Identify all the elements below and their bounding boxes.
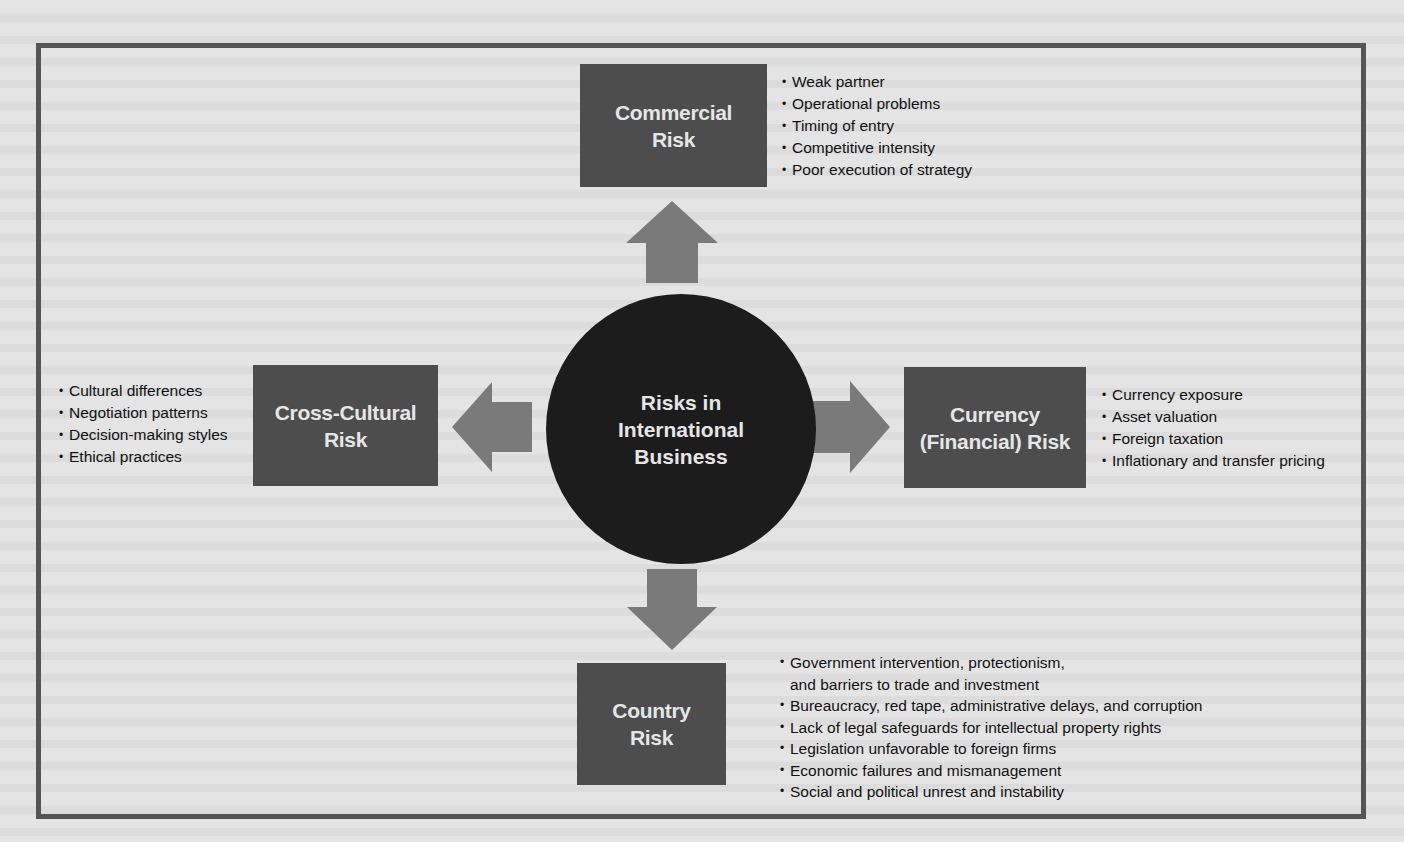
cross-cultural-risk-box: Cross-Cultural Risk xyxy=(253,365,438,486)
list-item: Ethical practices xyxy=(59,446,228,468)
arrow-down-icon xyxy=(627,569,717,650)
commercial-risk-title: Risk xyxy=(615,126,732,153)
commercial-risk-list: Weak partner Operational problems Timing… xyxy=(782,71,972,181)
list-item: Social and political unrest and instabil… xyxy=(780,781,1202,803)
currency-risk-title: (Financial) Risk xyxy=(920,428,1070,455)
center-title-line: International xyxy=(618,416,744,443)
country-risk-box: Country Risk xyxy=(577,663,726,785)
center-title-line: Business xyxy=(618,443,744,470)
list-item: Cultural differences xyxy=(59,380,228,402)
currency-financial-risk-box: Currency (Financial) Risk xyxy=(904,367,1086,488)
list-item: Negotiation patterns xyxy=(59,402,228,424)
list-item: Weak partner xyxy=(782,71,972,93)
arrow-right-icon xyxy=(812,381,890,473)
commercial-risk-box: Commercial Risk xyxy=(580,64,767,187)
list-item: Operational problems xyxy=(782,93,972,115)
list-item: Timing of entry xyxy=(782,115,972,137)
list-item-text: Government intervention, protectionism, xyxy=(790,654,1065,671)
country-risk-list: Government intervention, protectionism, … xyxy=(780,652,1202,803)
arrow-left-icon xyxy=(452,382,532,472)
list-item: Asset valuation xyxy=(1102,406,1325,428)
list-item: Foreign taxation xyxy=(1102,428,1325,450)
list-item: Competitive intensity xyxy=(782,137,972,159)
list-item: Bureaucracy, red tape, administrative de… xyxy=(780,695,1202,717)
center-title-line: Risks in xyxy=(618,389,744,416)
arrow-up-icon xyxy=(626,201,718,283)
list-item: Government intervention, protectionism, … xyxy=(780,652,1202,695)
commercial-risk-title: Commercial xyxy=(615,99,732,126)
center-risks-in-international-business: Risks in International Business xyxy=(546,294,816,564)
list-item: Currency exposure xyxy=(1102,384,1325,406)
list-item: Legislation unfavorable to foreign firms xyxy=(780,738,1202,760)
country-risk-title: Country xyxy=(612,697,690,724)
cross-cultural-risk-title: Cross-Cultural xyxy=(275,399,417,426)
list-item: Inflationary and transfer pricing xyxy=(1102,450,1325,472)
cross-cultural-risk-list: Cultural differences Negotiation pattern… xyxy=(59,380,228,468)
list-item: Poor execution of strategy xyxy=(782,159,972,181)
cross-cultural-risk-title: Risk xyxy=(275,426,417,453)
list-item-continuation: and barriers to trade and investment xyxy=(790,676,1039,693)
list-item: Economic failures and mismanagement xyxy=(780,760,1202,782)
country-risk-title: Risk xyxy=(612,724,690,751)
list-item: Decision-making styles xyxy=(59,424,228,446)
currency-risk-title: Currency xyxy=(920,401,1070,428)
list-item: Lack of legal safeguards for intellectua… xyxy=(780,717,1202,739)
currency-risk-list: Currency exposure Asset valuation Foreig… xyxy=(1102,384,1325,472)
